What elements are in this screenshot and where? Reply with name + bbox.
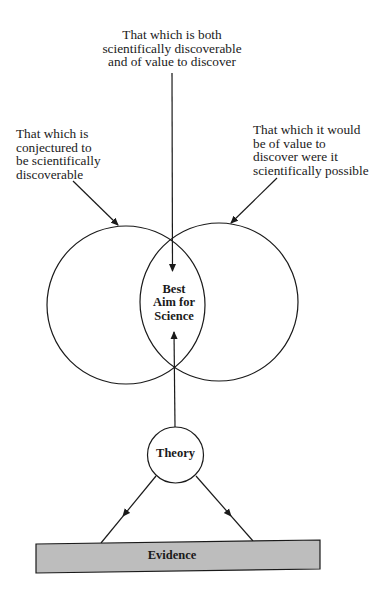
- left-label-line: discoverable: [16, 168, 101, 182]
- theory-label: Theory: [145, 447, 206, 461]
- theory-to-evidence-left-line: [101, 476, 156, 543]
- intersection-label: Best Aim for Science: [142, 283, 206, 323]
- theory-up-arrow: [174, 332, 175, 427]
- left-label-line: That which is: [16, 127, 101, 141]
- intersection-label-line: Best: [142, 283, 206, 296]
- intersection-label-line: Aim for: [142, 296, 206, 309]
- left-label-line: be scientifically: [16, 154, 101, 168]
- intersection-label-line: Science: [142, 310, 206, 323]
- top-label-line: scientifically discoverable: [92, 42, 252, 56]
- right-label: That which it would be of value to disco…: [253, 123, 369, 177]
- right-arrow: [231, 178, 277, 223]
- right-label-line: be of value to: [253, 137, 369, 151]
- evidence-label-text: Evidence: [120, 549, 224, 563]
- top-label-line: That which is both: [92, 28, 252, 42]
- left-label-line: conjectured to: [16, 141, 101, 155]
- evidence-label: Evidence: [120, 549, 224, 563]
- top-label: That which is both scientifically discov…: [92, 28, 252, 69]
- right-label-line: That which it would: [253, 123, 369, 137]
- theory-label-text: Theory: [145, 447, 206, 461]
- top-arrow: [172, 73, 173, 271]
- left-label: That which is conjectured to be scientif…: [16, 127, 101, 181]
- right-label-line: discover were it: [253, 150, 369, 164]
- left-arrow: [73, 181, 118, 225]
- theory-to-evidence-right-line: [196, 476, 253, 541]
- top-label-line: and of value to discover: [92, 55, 252, 69]
- right-label-line: scientifically possible: [253, 164, 369, 178]
